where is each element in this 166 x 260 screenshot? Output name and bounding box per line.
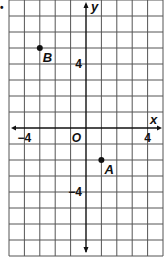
x-tick-label: −4 [18,131,32,145]
axes [11,2,162,253]
x-axis-left-arrow-icon [11,126,16,131]
question-bullet: • [0,2,4,13]
origin-label: O [72,131,82,145]
y-tick-label: −4 [68,185,82,199]
axis-labels: yxO−444−4BA [18,0,158,199]
point-label-a: A [103,162,113,177]
x-axis-label: x [149,112,158,127]
y-axis-up-arrow-icon [84,2,89,8]
y-tick-label: 4 [75,57,82,71]
point-a [98,157,104,163]
y-axis-label: y [90,0,99,14]
y-axis-down-arrow-icon [84,247,89,253]
coordinate-plane: yxO−444−4BA • [0,0,166,260]
point-b [37,45,43,51]
x-tick-label: 4 [144,131,151,145]
point-label-b: B [43,50,52,65]
x-axis-right-arrow-icon [157,126,162,131]
